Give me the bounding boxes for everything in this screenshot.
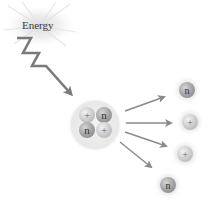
arrow-icon xyxy=(125,97,164,111)
nucleus xyxy=(72,102,118,148)
nuclear-disintegration-diagram: Energy + n n + n + + n xyxy=(0,0,216,206)
arrow-icon xyxy=(120,142,151,167)
nucleus-proton: + xyxy=(96,122,112,138)
emitted-neutron: n xyxy=(179,82,195,98)
nucleus-proton: + xyxy=(79,107,95,123)
nucleus-neutron: n xyxy=(79,122,95,138)
energy-label: Energy xyxy=(22,19,54,31)
emitted-proton: + xyxy=(182,114,198,130)
nucleus-neutron: n xyxy=(96,107,112,123)
emitted-neutron: n xyxy=(160,177,176,193)
arrow-icon xyxy=(125,132,166,146)
emitted-proton: + xyxy=(177,146,193,162)
